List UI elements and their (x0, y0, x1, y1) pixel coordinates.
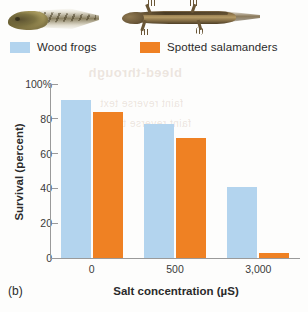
legend-item-spotted-salamanders: Spotted salamanders (140, 41, 278, 53)
bar-spotted-salamanders-500 (176, 138, 206, 258)
y-tick-mark (52, 153, 58, 154)
y-tick-label: 40 (18, 182, 52, 194)
page-bleed-through-text: bleed-through (88, 65, 182, 80)
y-tick-40: 40 (8, 182, 52, 194)
y-tick-label: 100% (18, 78, 52, 90)
salamander-head (122, 12, 144, 24)
bar-chart-plot-area: bleed-through faint reverse text faint r… (0, 62, 308, 312)
salamander-foot (190, 0, 197, 6)
bar-spotted-salamanders-0 (93, 112, 123, 258)
x-axis-line (50, 258, 300, 259)
tadpole-body (8, 11, 48, 30)
x-tick-label-3000: 3,000 (228, 263, 288, 275)
y-tick-100pct: 100% (8, 78, 52, 90)
y-axis-line (50, 84, 51, 259)
y-tick-0: 0 (8, 252, 52, 264)
legend-item-wood-frogs: Wood frogs (10, 41, 97, 53)
specimen-photo-row (0, 0, 308, 36)
y-tick-mark (52, 223, 58, 224)
figure-panel-b: Wood frogs Spotted salamanders bleed-thr… (0, 0, 308, 312)
legend-label-wood-frogs: Wood frogs (37, 41, 97, 53)
wood-frog-tadpole-photo (6, 2, 104, 35)
bar-wood-frogs-3000 (227, 187, 257, 258)
spotted-salamander-larva-photo (120, 0, 260, 36)
y-tick-mark (52, 84, 58, 85)
panel-label: (b) (8, 284, 23, 298)
y-tick-label: 20 (18, 217, 52, 229)
page-bleed-through-text: faint reverse text (100, 98, 183, 109)
chart-legend: Wood frogs Spotted salamanders (8, 40, 298, 58)
bar-wood-frogs-0 (61, 100, 91, 258)
bar-wood-frogs-500 (144, 124, 174, 258)
x-tick-label-500: 500 (145, 263, 205, 275)
legend-label-spotted-salamanders: Spotted salamanders (167, 41, 278, 53)
legend-swatch-spotted-salamanders (140, 42, 160, 53)
y-tick-60: 60 (8, 148, 52, 160)
x-tick-label-0: 0 (62, 263, 122, 275)
y-tick-label: 60 (18, 148, 52, 160)
salamander-dorsal-stripe (132, 12, 228, 15)
salamander-foot (148, 0, 155, 6)
legend-swatch-wood-frogs (10, 42, 30, 53)
y-tick-label: 80 (18, 113, 52, 125)
y-tick-20: 20 (8, 217, 52, 229)
y-tick-label: 0 (18, 252, 52, 264)
salamander-foot (141, 29, 148, 35)
y-tick-80: 80 (8, 113, 52, 125)
x-axis-title: Salt concentration (µS) (56, 285, 296, 297)
salamander-foot (196, 27, 204, 34)
tadpole-eye (15, 17, 20, 21)
y-tick-mark (52, 118, 58, 119)
y-tick-mark (52, 188, 58, 189)
